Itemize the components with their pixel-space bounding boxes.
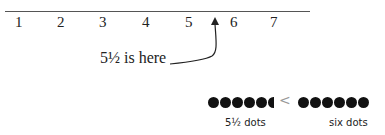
six-dots-group [298, 97, 369, 108]
dot [220, 97, 231, 108]
dot [232, 97, 243, 108]
dot [244, 97, 255, 108]
dot [208, 97, 219, 108]
dot [256, 97, 267, 108]
half-dots-group [208, 97, 274, 108]
dot [322, 97, 333, 108]
half-dot [268, 97, 274, 108]
less-than-symbol: < [279, 92, 291, 108]
dot [310, 97, 321, 108]
dot [358, 97, 369, 108]
half-dots-label: 5½ dots [225, 117, 266, 128]
dot [346, 97, 357, 108]
dot [298, 97, 309, 108]
six-dots-label: six dots [329, 117, 368, 128]
curved-arrow-icon [0, 0, 385, 135]
dot [334, 97, 345, 108]
callout-label: 5½ is here [100, 49, 166, 67]
